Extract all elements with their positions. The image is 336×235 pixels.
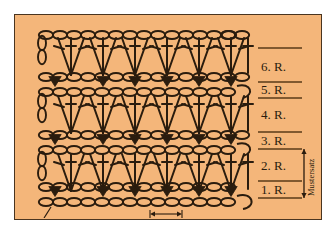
shell — [182, 96, 217, 133]
chart-row-5 — [39, 73, 250, 98]
row-label-2: 2. R. — [261, 158, 286, 173]
mustersatz-vertical-bracket: Mustersatz — [301, 149, 316, 198]
shell — [214, 154, 249, 191]
row3-chain — [39, 131, 249, 139]
row6-shells — [54, 38, 253, 75]
row4-shells — [54, 96, 253, 133]
shell — [150, 96, 185, 133]
shell — [214, 38, 249, 75]
shell — [54, 38, 89, 75]
shell — [86, 154, 121, 191]
row6-turning-chain — [38, 36, 46, 64]
row-label-1: 1. R. — [261, 182, 286, 197]
row2-turning-chain — [38, 152, 46, 180]
row-label-4: 4. R. — [261, 107, 286, 122]
shell — [182, 154, 217, 191]
shell — [54, 154, 89, 191]
mustersatz-vertical-label: Mustersatz — [306, 158, 316, 196]
beginn-annotation: Beginn — [35, 207, 75, 218]
row4-turning-chain — [38, 94, 46, 122]
chart-row-4 — [38, 94, 253, 133]
shell-edge — [243, 38, 253, 73]
row2-shells — [54, 154, 253, 191]
crochet-chart: 6. R. 5. R. 4. R. 3. R. 2. R. 1. R. Must… — [15, 15, 321, 219]
shell — [150, 38, 185, 75]
beginn-leader-line — [44, 207, 51, 218]
mustersatz-horizontal-bracket — [150, 210, 182, 218]
shell — [118, 96, 153, 133]
row1-edge-turn — [237, 195, 252, 209]
row-label-group: 6. R. 5. R. 4. R. 3. R. 2. R. 1. R. — [261, 59, 286, 197]
chart-panel: 6. R. 5. R. 4. R. 3. R. 2. R. 1. R. Must… — [14, 14, 322, 220]
row-label-6: 6. R. — [261, 59, 286, 74]
row1-foundation-chain — [39, 198, 235, 206]
row-label-5: 5. R. — [261, 82, 286, 97]
row3-chain-lower — [39, 146, 235, 154]
shell — [182, 38, 217, 75]
shell-edge — [243, 96, 253, 131]
chart-row-6 — [38, 31, 253, 75]
row5-chain-lower — [39, 88, 235, 96]
chart-row-3 — [39, 131, 250, 156]
row5-chain — [39, 73, 249, 81]
shell — [118, 38, 153, 75]
shell — [86, 96, 121, 133]
shell — [54, 96, 89, 133]
row-label-3: 3. R. — [261, 133, 286, 148]
shell — [214, 96, 249, 133]
figure-page: 6. R. 5. R. 4. R. 3. R. 2. R. 1. R. Must… — [0, 0, 336, 235]
shell-edge — [243, 154, 253, 189]
shell — [86, 38, 121, 75]
